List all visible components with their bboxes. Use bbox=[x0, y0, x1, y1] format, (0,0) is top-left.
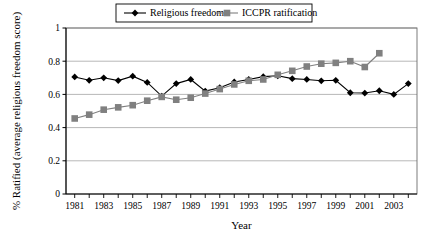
data-point bbox=[376, 50, 383, 57]
x-axis: 1981198319851987198919911993199519971999… bbox=[65, 194, 417, 211]
data-point bbox=[245, 77, 252, 84]
series-line bbox=[75, 76, 409, 96]
data-point bbox=[100, 106, 107, 113]
data-point bbox=[86, 111, 93, 118]
y-tick-label: 0.8 bbox=[48, 57, 60, 67]
data-point bbox=[231, 81, 238, 88]
data-point bbox=[86, 77, 93, 84]
data-point bbox=[361, 90, 368, 97]
data-point bbox=[129, 73, 136, 80]
data-point bbox=[158, 94, 165, 101]
y-tick-label: 0 bbox=[55, 189, 60, 199]
data-point bbox=[202, 90, 209, 97]
data-point bbox=[289, 75, 296, 82]
chart-legend: Religious freedomICCPR ratification bbox=[116, 4, 317, 22]
data-point bbox=[187, 94, 194, 101]
x-tick-label: 1983 bbox=[94, 201, 113, 211]
data-point bbox=[115, 104, 122, 111]
data-point bbox=[173, 96, 180, 103]
legend-label-1: Religious freedom bbox=[150, 7, 224, 18]
x-tick-label: 1981 bbox=[65, 201, 84, 211]
plot-frame bbox=[66, 28, 417, 194]
data-point bbox=[376, 87, 383, 94]
data-point bbox=[332, 60, 339, 67]
y-axis: 00.20.40.60.81 bbox=[48, 23, 66, 199]
data-point bbox=[71, 74, 78, 81]
chart-container: 00.20.40.60.81 1981198319851987198919911… bbox=[0, 0, 430, 239]
x-tick-label: 1985 bbox=[123, 201, 142, 211]
data-point bbox=[303, 63, 310, 70]
data-point bbox=[144, 97, 151, 104]
data-point bbox=[115, 77, 122, 84]
religious-freedom-iccpr-line-chart: 00.20.40.60.81 1981198319851987198919911… bbox=[0, 0, 430, 239]
x-tick-label: 1999 bbox=[326, 201, 345, 211]
data-point bbox=[100, 74, 107, 81]
data-point bbox=[129, 102, 136, 109]
x-tick-label: 1989 bbox=[181, 201, 200, 211]
data-point bbox=[274, 72, 281, 79]
y-tick-label: 1 bbox=[55, 23, 60, 33]
x-tick-label: 1993 bbox=[239, 201, 258, 211]
series-1 bbox=[71, 72, 411, 99]
plot-area-border bbox=[66, 28, 417, 194]
legend-marker-square bbox=[224, 10, 231, 17]
data-point bbox=[71, 115, 78, 122]
x-tick-label: 2003 bbox=[384, 201, 403, 211]
data-point bbox=[260, 76, 267, 83]
series-2 bbox=[71, 50, 382, 122]
y-tick-label: 0.6 bbox=[48, 90, 60, 100]
legend-label-2: ICCPR ratification bbox=[242, 7, 317, 18]
data-point bbox=[361, 64, 368, 71]
x-tick-label: 1987 bbox=[152, 201, 171, 211]
data-point bbox=[303, 76, 310, 83]
x-tick-label: 1997 bbox=[297, 201, 316, 211]
y-tick-label: 0.2 bbox=[48, 156, 60, 166]
data-point bbox=[318, 60, 325, 67]
data-point bbox=[289, 68, 296, 75]
data-point bbox=[216, 86, 223, 93]
y-axis-title: % Ratified (average religious freedom sc… bbox=[10, 12, 23, 211]
y-tick-label: 0.4 bbox=[48, 123, 60, 133]
x-tick-label: 1991 bbox=[210, 201, 229, 211]
x-axis-title: Year bbox=[231, 219, 252, 231]
x-tick-label: 1995 bbox=[268, 201, 287, 211]
data-series-layer bbox=[71, 50, 411, 122]
data-point bbox=[347, 58, 354, 65]
x-tick-label: 2001 bbox=[355, 201, 374, 211]
data-point bbox=[318, 77, 325, 84]
